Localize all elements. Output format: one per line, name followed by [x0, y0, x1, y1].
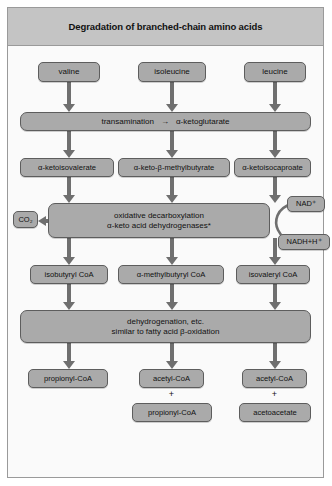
arrow-ketomethylbutyrate-to-decarboxylation — [166, 177, 178, 203]
arrow-dehydrogenation-to-acetyl-coa-col3 — [269, 343, 281, 369]
transamination-product-label: α-ketoglutarate — [176, 117, 230, 127]
node-product-acetyl-coa-col2-label: acetyl-CoA — [153, 374, 190, 383]
node-co2[interactable]: CO₂ — [13, 211, 38, 228]
node-isobutyryl-coa[interactable]: isobutyryl CoA — [30, 265, 108, 284]
node-isobutyryl-coa-label: isobutyryl CoA — [45, 270, 94, 279]
node-nad-plus-label: NAD⁺ — [296, 199, 316, 208]
node-product-acetyl-coa-col3-label: acetyl-CoA — [256, 374, 293, 383]
diagram-canvas: valine isoleucine leucine transamination… — [8, 46, 323, 478]
arrow-isovaleryl-to-dehydrogenation — [269, 284, 281, 310]
node-alpha-keto-beta-methylbutyrate-label: α-keto-β-methylbutyrate — [134, 163, 215, 172]
node-product-propionyl-coa-col2-label: propionyl-CoA — [148, 408, 196, 417]
node-alpha-keto-beta-methylbutyrate[interactable]: α-keto-β-methylbutyrate — [118, 158, 230, 177]
arrow-ketoisovalerate-to-decarboxylation — [63, 177, 75, 203]
figure-panel: Degradation of branched-chain amino acid… — [7, 7, 324, 478]
node-nadh-label: NADH+H⁺ — [286, 237, 321, 246]
node-alpha-methylbutyryl-coa-label: α-methylbutyryl CoA — [137, 270, 206, 279]
arrow-valine-to-transamination — [63, 82, 75, 112]
dehydrogenation-line1: dehydrogenation, etc. — [127, 317, 204, 327]
arrow-transamination-to-ketoisocaproate — [269, 131, 281, 158]
plus-sign-col3: + — [242, 389, 307, 399]
plus-sign-col2: + — [139, 389, 204, 399]
page-title: Degradation of branched-chain amino acid… — [69, 21, 263, 32]
arrow-methylbutyryl-to-dehydrogenation — [166, 284, 178, 310]
reaction-arrow-icon: → — [161, 117, 169, 127]
node-transamination[interactable]: transamination → α-ketoglutarate — [20, 112, 311, 131]
arrow-transamination-to-ketoisovalerate — [63, 131, 75, 158]
decarboxylation-line1: oxidative decarboxylation — [114, 211, 204, 221]
figure-title-bar: Degradation of branched-chain amino acid… — [8, 8, 323, 46]
node-valine[interactable]: valine — [38, 62, 100, 82]
node-product-propionyl-coa-col1[interactable]: propionyl-CoA — [28, 369, 108, 388]
node-valine-label: valine — [59, 67, 80, 77]
node-alpha-ketoisocaproate-label: α-ketoisocaproate — [242, 163, 303, 172]
transamination-label: transamination — [101, 117, 153, 127]
node-isoleucine-label: isoleucine — [154, 67, 190, 77]
node-isovaleryl-coa-label: isovaleryl CoA — [249, 270, 298, 279]
node-isovaleryl-coa[interactable]: isovaleryl CoA — [236, 265, 310, 284]
node-alpha-ketoisovalerate[interactable]: α-ketoisovalerate — [20, 158, 114, 177]
node-oxidative-decarboxylation[interactable]: oxidative decarboxylation α-keto acid de… — [48, 203, 270, 238]
arrow-decarboxylation-to-methylbutyryl-coa — [166, 238, 178, 265]
node-product-acetyl-coa-col2[interactable]: acetyl-CoA — [139, 369, 204, 388]
dehydrogenation-line2: similar to fatty acid β-oxidation — [112, 327, 220, 337]
arrow-dehydrogenation-to-acetyl-coa-col2 — [166, 343, 178, 369]
arrow-decarboxylation-to-isobutyryl-coa — [63, 238, 75, 265]
node-product-propionyl-coa-col2[interactable]: propionyl-CoA — [132, 403, 212, 422]
node-dehydrogenation[interactable]: dehydrogenation, etc. similar to fatty a… — [20, 310, 311, 343]
node-alpha-ketoisovalerate-label: α-ketoisovalerate — [38, 163, 96, 172]
node-product-acetyl-coa-col3[interactable]: acetyl-CoA — [242, 369, 307, 388]
arrow-transamination-to-ketomethylbutyrate — [166, 131, 178, 158]
node-product-propionyl-coa-col1-label: propionyl-CoA — [44, 374, 92, 383]
node-nadh[interactable]: NADH+H⁺ — [278, 234, 330, 250]
arrow-isoleucine-to-transamination — [166, 82, 178, 112]
node-alpha-methylbutyryl-coa[interactable]: α-methylbutyryl CoA — [118, 265, 224, 284]
node-leucine[interactable]: leucine — [244, 62, 306, 82]
arrow-dehydrogenation-to-propionyl-coa — [63, 343, 75, 369]
node-nad-plus[interactable]: NAD⁺ — [287, 196, 325, 212]
decarboxylation-line2: α-keto acid dehydrogenases* — [107, 221, 211, 231]
node-alpha-ketoisocaproate[interactable]: α-ketoisocaproate — [234, 158, 311, 177]
node-leucine-label: leucine — [262, 67, 287, 77]
arrow-isobutyryl-to-dehydrogenation — [63, 284, 75, 310]
node-co2-label: CO₂ — [18, 215, 32, 224]
node-isoleucine[interactable]: isoleucine — [138, 62, 206, 82]
node-product-acetoacetate-col3-label: acetoacetate — [253, 408, 297, 417]
node-product-acetoacetate-col3[interactable]: acetoacetate — [239, 403, 311, 422]
arrow-leucine-to-transamination — [269, 82, 281, 112]
